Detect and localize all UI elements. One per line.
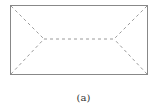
fold-line-top-right — [114, 6, 147, 39]
fold-line-bottom-right — [114, 39, 147, 74]
outer-rectangle — [11, 6, 148, 75]
figure-caption: (a) — [0, 92, 167, 103]
fold-line-bottom-left — [11, 39, 44, 74]
fold-line-top-left — [11, 6, 44, 39]
